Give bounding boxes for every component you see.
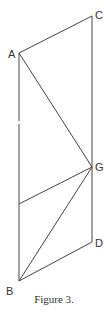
segment-GE xyxy=(19,167,92,204)
figure-drawing xyxy=(0,0,108,320)
segment-BD xyxy=(19,242,92,281)
segment-AG xyxy=(19,53,92,167)
figure-caption: Figure 3. xyxy=(0,293,108,305)
label-C: C xyxy=(95,10,103,21)
segment-AC xyxy=(19,16,92,53)
label-A: A xyxy=(8,49,15,60)
label-G: G xyxy=(95,162,104,173)
geometry-figure: A C G D B Figure 3. xyxy=(0,0,108,320)
label-D: D xyxy=(95,238,103,249)
segment-GB xyxy=(19,167,92,281)
